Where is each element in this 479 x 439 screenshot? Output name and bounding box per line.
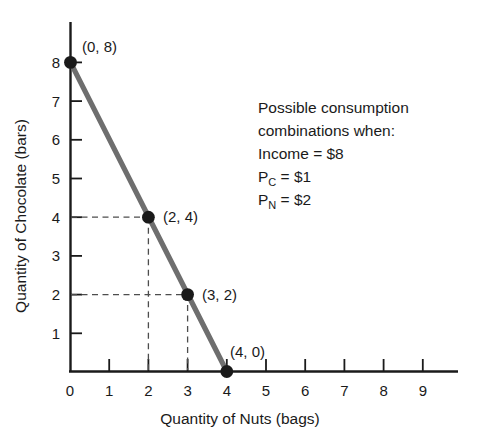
annotation-line-income: Income = $8 xyxy=(258,145,344,162)
data-point-3-2[interactable] xyxy=(181,288,194,301)
data-point-label-4-0: (4, 0) xyxy=(230,343,265,360)
price-nuts-symbol: P xyxy=(258,191,268,208)
y-tick-label-4: 4 xyxy=(52,209,60,226)
y-tick-label-1: 1 xyxy=(52,325,60,342)
y-axis-ticks xyxy=(71,62,83,333)
x-axis-ticks xyxy=(109,359,423,372)
x-axis-title: Quantity of Nuts (bags) xyxy=(160,410,319,427)
y-tick-label-7: 7 xyxy=(52,93,60,110)
price-nuts-value: = $2 xyxy=(276,191,311,208)
budget-line-chart: 8 7 6 5 4 3 2 1 0 1 2 3 4 5 6 7 8 9 xyxy=(0,0,479,439)
price-nuts-subscript: N xyxy=(268,199,276,211)
x-tick-label-7: 7 xyxy=(340,382,348,399)
annotation-line-price-chocolate: PC = $1 xyxy=(258,168,311,188)
y-tick-label-8: 8 xyxy=(52,54,60,71)
data-point-label-3-2: (3, 2) xyxy=(202,286,237,303)
price-chocolate-subscript: C xyxy=(268,176,276,188)
x-tick-label-5: 5 xyxy=(262,382,270,399)
x-tick-label-2: 2 xyxy=(144,382,152,399)
price-chocolate-value: = $1 xyxy=(276,168,311,185)
price-chocolate-symbol: P xyxy=(258,168,268,185)
y-tick-labels: 8 7 6 5 4 3 2 1 xyxy=(52,54,60,342)
chart-figure: 8 7 6 5 4 3 2 1 0 1 2 3 4 5 6 7 8 9 xyxy=(0,0,479,439)
y-tick-label-5: 5 xyxy=(52,170,60,187)
x-tick-label-3: 3 xyxy=(183,382,191,399)
x-tick-label-6: 6 xyxy=(301,382,309,399)
y-axis-title: Quantity of Chocolate (bars) xyxy=(12,119,29,313)
data-point-label-2-4: (2, 4) xyxy=(163,208,198,225)
data-point-0-8[interactable] xyxy=(64,56,77,69)
data-point-labels: (0, 8) (2, 4) (3, 2) (4, 0) xyxy=(82,38,265,360)
guide-lines xyxy=(71,217,188,370)
data-point-4-0[interactable] xyxy=(220,365,233,378)
y-tick-label-3: 3 xyxy=(52,247,60,264)
y-tick-label-2: 2 xyxy=(52,286,60,303)
x-tick-label-4: 4 xyxy=(223,382,231,399)
annotation-line-1: Possible consumption xyxy=(258,99,409,116)
x-tick-label-8: 8 xyxy=(379,382,387,399)
data-point-label-0-8: (0, 8) xyxy=(82,38,117,55)
x-tick-label-0: 0 xyxy=(66,382,74,399)
x-tick-label-1: 1 xyxy=(105,382,113,399)
annotation-line-2: combinations when: xyxy=(258,122,395,139)
x-tick-label-9: 9 xyxy=(419,382,427,399)
x-tick-labels: 0 1 2 3 4 5 6 7 8 9 xyxy=(66,382,427,399)
y-tick-label-6: 6 xyxy=(52,131,60,148)
data-point-2-4[interactable] xyxy=(142,211,155,224)
annotation-block: Possible consumption combinations when: … xyxy=(258,99,409,211)
annotation-line-price-nuts: PN = $2 xyxy=(258,191,311,211)
